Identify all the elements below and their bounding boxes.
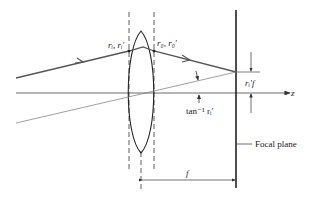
output-ray-label: r₀, r₀′ <box>157 38 178 48</box>
ray-arrow-icon <box>75 58 83 63</box>
input-ray <box>16 47 236 78</box>
angle-arrow-top <box>196 71 198 80</box>
height-label: rᵢ′f <box>245 78 256 88</box>
output-point <box>153 50 156 53</box>
axis-z-label: z <box>290 88 295 98</box>
input-point <box>128 50 131 53</box>
focal-plane-label: Focal plane <box>255 139 297 149</box>
input-ray-label: rᵢ, rᵢ′ <box>108 40 125 50</box>
focal-length-label: f <box>186 168 190 178</box>
thin-lens-diagram: rᵢ, rᵢ′ r₀, r₀′ tan⁻¹ rᵢ′ rᵢ′f z Focal p… <box>0 0 319 202</box>
angle-label: tan⁻¹ rᵢ′ <box>186 106 213 116</box>
